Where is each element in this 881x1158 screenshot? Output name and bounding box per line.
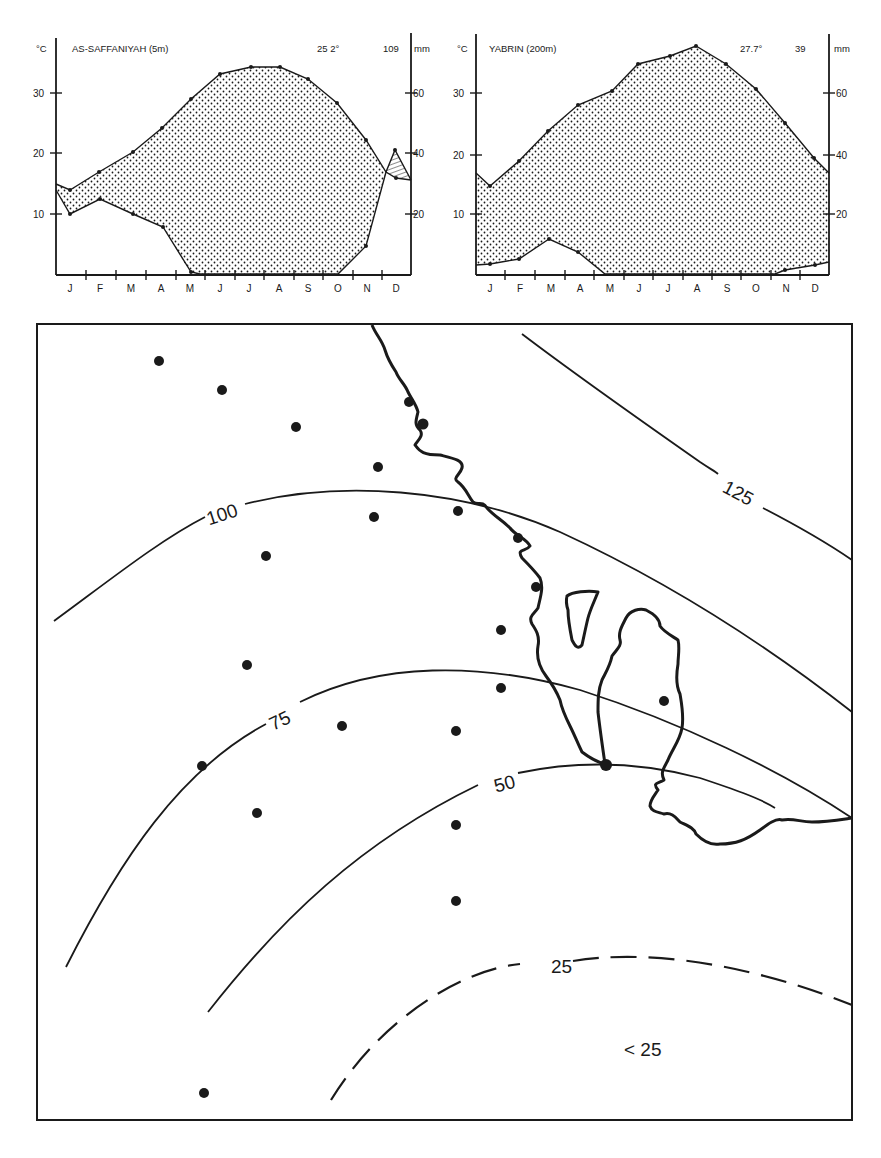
svg-text:J: J <box>68 283 73 294</box>
annual-precipitation-label: 109 <box>383 43 399 54</box>
svg-text:N: N <box>782 283 789 294</box>
svg-text:F: F <box>517 283 523 294</box>
station-marker <box>418 419 429 430</box>
isohyet-label-125: 125 <box>719 476 757 509</box>
svg-text:N: N <box>363 283 370 294</box>
temp-tick-10: 10 <box>33 209 45 220</box>
precip-tick-40: 40 <box>836 150 848 161</box>
temp-unit-label: °C <box>36 43 47 54</box>
svg-text:J: J <box>247 283 252 294</box>
station-marker <box>531 582 541 592</box>
precip-tick-40: 40 <box>413 148 425 159</box>
isohyet-label-75: 75 <box>266 707 294 735</box>
climate-figure: °C AS-SAFFANIYAH (5m) 25 2° 109 mm 30 20… <box>0 0 881 1158</box>
isohyet-map: 125 100 75 50 25 < 25 <box>37 324 852 1120</box>
temp-tick-20: 20 <box>33 148 45 159</box>
station-marker <box>600 759 612 771</box>
climate-diagram-yabrin: °C YABRIN (200m) 27.7° 39 mm 30 20 10 60… <box>453 34 850 294</box>
mean-temperature-label: 25 2° <box>317 43 339 54</box>
isohyet-label-25: 25 <box>551 956 572 977</box>
svg-text:A: A <box>158 283 165 294</box>
isohyet-125 <box>522 334 852 560</box>
svg-text:S: S <box>724 283 731 294</box>
svg-text:A: A <box>577 283 584 294</box>
station-points <box>154 356 669 1098</box>
svg-text:J: J <box>488 283 493 294</box>
precip-tick-20: 20 <box>413 209 425 220</box>
station-marker <box>659 696 669 706</box>
isohyet-100 <box>54 491 852 712</box>
precip-tick-60: 60 <box>413 88 425 99</box>
station-marker <box>197 761 207 771</box>
svg-text:J: J <box>666 283 671 294</box>
humid-period-area <box>386 150 411 180</box>
climate-diagram-as-saffaniyah: °C AS-SAFFANIYAH (5m) 25 2° 109 mm 30 20… <box>33 33 430 294</box>
isohyet-label-100: 100 <box>204 500 241 530</box>
svg-text:O: O <box>334 283 342 294</box>
svg-text:M: M <box>547 283 555 294</box>
svg-text:A: A <box>694 283 701 294</box>
month-labels: J F M A M J J A S O N D <box>488 283 819 294</box>
isohyet-25-dashed <box>331 957 852 1100</box>
arid-period-area <box>476 46 829 274</box>
temp-unit-label: °C <box>457 43 468 54</box>
coastline <box>372 325 605 764</box>
svg-text:A: A <box>276 283 283 294</box>
svg-text:J: J <box>637 283 642 294</box>
arid-period-area <box>56 67 386 274</box>
svg-text:O: O <box>752 283 760 294</box>
temp-tick-20: 20 <box>453 150 465 161</box>
precip-tick-20: 20 <box>836 209 848 220</box>
station-marker <box>217 385 227 395</box>
svg-text:M: M <box>606 283 614 294</box>
station-title: YABRIN (200m) <box>489 43 556 54</box>
svg-text:J: J <box>218 283 223 294</box>
station-marker <box>451 820 461 830</box>
station-marker <box>242 660 252 670</box>
station-marker <box>453 506 463 516</box>
station-marker <box>451 896 461 906</box>
station-marker <box>337 721 347 731</box>
isohyet-50 <box>208 764 775 1012</box>
station-marker <box>496 625 506 635</box>
station-marker <box>261 551 271 561</box>
svg-text:S: S <box>305 283 312 294</box>
precip-tick-60: 60 <box>836 88 848 99</box>
precip-unit-label: mm <box>834 43 850 54</box>
station-marker <box>154 356 164 366</box>
station-marker <box>291 422 301 432</box>
temp-tick-10: 10 <box>453 209 465 220</box>
station-marker <box>373 462 383 472</box>
island-coastline <box>566 591 598 647</box>
svg-text:D: D <box>392 283 399 294</box>
station-marker <box>451 726 461 736</box>
annual-precipitation-label: 39 <box>795 43 806 54</box>
station-marker <box>369 512 379 522</box>
map-frame <box>37 324 852 1120</box>
temp-tick-30: 30 <box>33 88 45 99</box>
isohyet-label-50: 50 <box>492 771 518 797</box>
svg-text:F: F <box>97 283 103 294</box>
peninsula-coastline <box>598 609 852 844</box>
station-marker <box>513 533 523 543</box>
station-title: AS-SAFFANIYAH (5m) <box>72 43 168 54</box>
temp-tick-30: 30 <box>453 88 465 99</box>
svg-text:D: D <box>811 283 818 294</box>
region-label-below-25: < 25 <box>624 1039 662 1060</box>
precip-unit-label: mm <box>414 43 430 54</box>
svg-text:M: M <box>186 283 194 294</box>
svg-text:M: M <box>127 283 135 294</box>
isohyet-75 <box>66 670 852 967</box>
mean-temperature-label: 27.7° <box>740 43 762 54</box>
station-marker <box>252 808 262 818</box>
month-labels: J F M A M J J A S O N D <box>68 283 400 294</box>
station-marker <box>199 1088 209 1098</box>
station-marker <box>404 397 414 407</box>
station-marker <box>496 683 506 693</box>
